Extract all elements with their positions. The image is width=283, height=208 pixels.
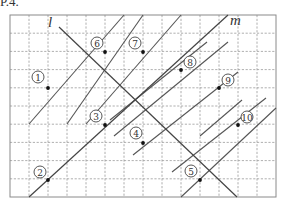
point-2: 2 <box>34 166 50 182</box>
point-label: 1 <box>35 73 41 83</box>
point-label: 9 <box>225 76 231 86</box>
point-dot <box>103 123 107 127</box>
point-dot <box>141 141 145 145</box>
point-label: 2 <box>37 168 43 178</box>
parallel-segment <box>181 108 276 197</box>
parallel-segment <box>200 100 242 136</box>
point-dot <box>141 50 145 54</box>
point-label: 5 <box>188 167 194 177</box>
line-m-label: m <box>230 12 241 28</box>
point-dot <box>46 86 50 90</box>
point-dot <box>236 123 240 127</box>
parallel-segment <box>114 42 228 136</box>
grid-lines <box>10 15 276 197</box>
point-5: 5 <box>185 165 202 182</box>
point-label: 8 <box>187 58 193 68</box>
diagram-canvas: l m 12345678910 <box>0 0 283 208</box>
point-label: 6 <box>94 39 100 49</box>
point-label: 10 <box>241 113 253 123</box>
point-dot <box>103 50 107 54</box>
point-dot <box>179 68 183 72</box>
point-label: 3 <box>93 112 99 122</box>
point-dot <box>217 86 221 90</box>
point-1: 1 <box>32 71 50 90</box>
point-dot <box>198 178 202 182</box>
point-dot <box>46 178 50 182</box>
point-label: 4 <box>133 129 139 139</box>
point-label: 7 <box>132 39 138 49</box>
line-l-label: l <box>48 14 52 30</box>
